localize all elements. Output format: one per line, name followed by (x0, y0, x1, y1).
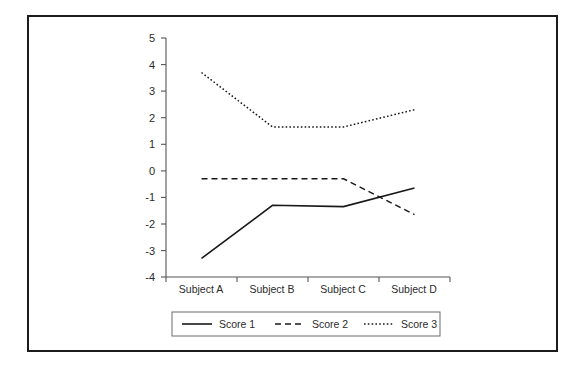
legend-border (172, 312, 440, 336)
x-tick-marks (166, 277, 450, 282)
chart-legend: Score 1 Score 2 Score 3 (172, 312, 440, 336)
y-tick-label-1: 1 (149, 138, 155, 150)
x-category-label-a: Subject A (179, 283, 223, 295)
y-tick-label-3: 3 (149, 85, 155, 97)
y-tick-marks (161, 38, 166, 277)
y-tick-label-neg1: -1 (145, 191, 155, 203)
x-category-label-d: Subject D (391, 283, 437, 295)
legend-label-score-2: Score 2 (312, 318, 348, 330)
x-category-label-c: Subject C (320, 283, 366, 295)
legend-label-score-3: Score 3 (401, 318, 437, 330)
series-line-score-3 (202, 73, 415, 127)
line-chart: 5 4 3 2 1 0 -1 -2 -3 -4 Subject A Subjec… (0, 0, 585, 368)
x-category-label-b: Subject B (250, 283, 295, 295)
y-tick-label-neg2: -2 (145, 218, 155, 230)
y-tick-label-2: 2 (149, 112, 155, 124)
y-tick-label-4: 4 (149, 59, 155, 71)
y-tick-label-0: 0 (149, 165, 155, 177)
y-tick-label-5: 5 (149, 32, 155, 44)
y-tick-label-neg3: -3 (145, 245, 155, 257)
legend-label-score-1: Score 1 (219, 318, 255, 330)
y-tick-label-neg4: -4 (145, 271, 155, 283)
figure-root: 5 4 3 2 1 0 -1 -2 -3 -4 Subject A Subjec… (0, 0, 585, 368)
